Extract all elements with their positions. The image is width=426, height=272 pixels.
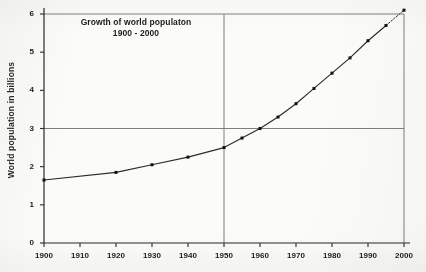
chart-plot-area [0,0,426,272]
data-point-1950 [223,146,226,149]
data-point-1960 [259,127,262,130]
data-point-1980 [331,72,334,75]
data-point-1955 [241,137,244,140]
data-point-1920 [115,171,118,174]
data-point-1930 [151,163,154,166]
data-point-1975 [313,87,316,90]
data-line-solid-0 [44,25,386,180]
data-point-1970 [295,102,298,105]
data-point-1965 [277,116,280,119]
data-point-1900 [43,179,46,182]
axis-ticks-group [40,14,404,247]
data-point-1990 [367,39,370,42]
reference-lines-group [44,14,404,243]
axes-group [44,8,410,243]
data-point-1940 [187,156,190,159]
data-point-1995 [385,24,388,27]
data-point-2000 [403,9,406,12]
data-line-projected-0 [386,10,404,25]
chart-page: World population in billions Growth of w… [0,0,426,272]
data-point-1985 [349,56,352,59]
